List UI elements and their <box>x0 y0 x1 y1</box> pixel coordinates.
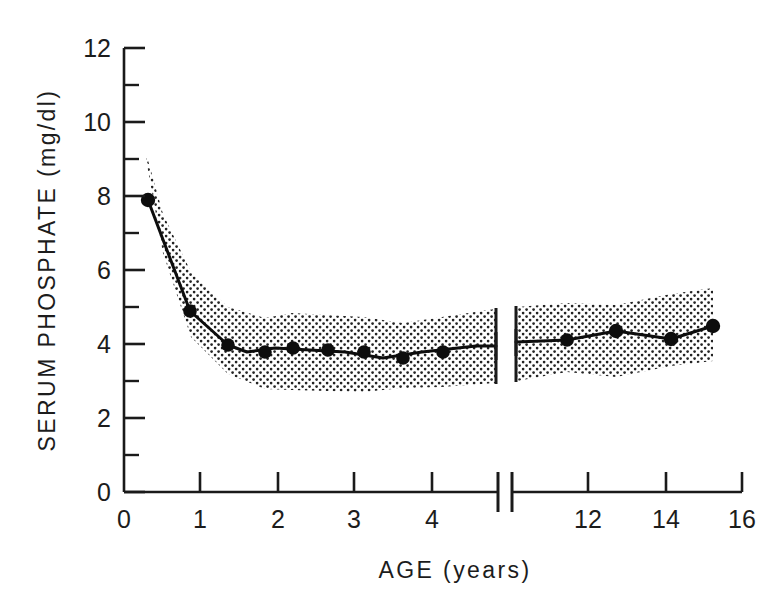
data-point <box>221 338 235 352</box>
y-tick-label: 6 <box>97 256 111 284</box>
data-point <box>609 324 623 338</box>
data-point <box>664 332 678 346</box>
x-tick-label: 12 <box>574 505 602 533</box>
data-point <box>560 333 574 347</box>
data-point <box>183 304 197 318</box>
y-tick-label: 4 <box>97 330 111 358</box>
y-tick-label: 0 <box>97 478 111 506</box>
x-tick-label: 4 <box>425 505 439 533</box>
x-axis-title: AGE (years) <box>379 557 532 583</box>
data-point <box>396 351 410 365</box>
x-tick-label: 3 <box>347 505 361 533</box>
x-tick-label: 1 <box>193 505 207 533</box>
y-tick-label: 2 <box>97 404 111 432</box>
y-tick-label: 8 <box>97 182 111 210</box>
x-tick-label: 0 <box>117 505 131 533</box>
y-tick-label: 12 <box>83 34 111 62</box>
data-point <box>258 345 272 359</box>
x-tick-label: 16 <box>728 505 756 533</box>
data-point <box>321 343 335 357</box>
y-axis-title: SERUM PHOSPHATE (mg/dl) <box>34 89 60 452</box>
data-point <box>436 345 450 359</box>
chart-figure: 12 10 8 6 4 2 0 SERUM PHOSPHATE (mg/dl) <box>0 0 779 606</box>
data-point <box>357 345 371 359</box>
y-tick-label: 10 <box>83 108 111 136</box>
x-tick-label: 2 <box>271 505 285 533</box>
data-point <box>706 319 720 333</box>
data-point <box>286 341 300 355</box>
x-tick-label: 14 <box>652 505 680 533</box>
serum-phosphate-chart: 12 10 8 6 4 2 0 SERUM PHOSPHATE (mg/dl) <box>0 0 779 606</box>
